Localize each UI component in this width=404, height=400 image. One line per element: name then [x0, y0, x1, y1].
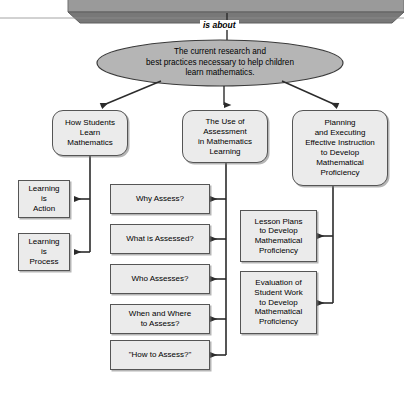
central-ellipse-shape [97, 40, 343, 86]
node-lesson-plans[interactable]: Lesson Plans to Develop Mathematical Pro… [240, 210, 317, 262]
edge-label-is-about: is about [200, 20, 239, 30]
node-when-and-where-to-assess[interactable]: When and Where to Assess? [110, 304, 210, 334]
diagram-canvas: is about The current research and best p… [0, 0, 404, 400]
connector-ellipse-to-branch-left [101, 81, 161, 106]
node-learning-is-action[interactable]: Learning is Action [18, 180, 70, 218]
node-how-students-learn[interactable]: How Students Learn Mathematics [52, 110, 128, 156]
node-learning-is-process[interactable]: Learning is Process [18, 233, 70, 271]
node-how-to-assess[interactable]: "How to Assess?" [110, 340, 210, 370]
node-who-assesses[interactable]: Who Assesses? [110, 264, 210, 294]
connector-ellipse-to-branch-right [282, 81, 338, 106]
node-planning-and-executing[interactable]: Planning and Executing Effective Instruc… [292, 110, 388, 186]
node-evaluation-of-student-work[interactable]: Evaluation of Student Work to Develop Ma… [240, 271, 317, 334]
node-use-of-assessment[interactable]: The Use of Assessment in Mathematics Lea… [182, 110, 268, 163]
node-why-assess[interactable]: Why Assess? [110, 184, 210, 214]
node-what-is-assessed[interactable]: What is Assessed? [110, 224, 210, 254]
